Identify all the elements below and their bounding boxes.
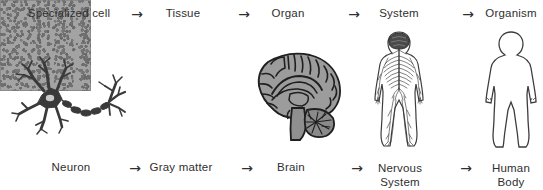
human-body-illustration xyxy=(480,30,542,148)
organization-hierarchy-diagram: Specialized cell → Tissue → Organ → Syst… xyxy=(0,0,543,190)
arrow-icon-nervous-system-to-human-body: → xyxy=(455,161,477,175)
example-label-nervous-system-line1: Nervous xyxy=(378,162,422,174)
example-label-human-body-line2: Body xyxy=(497,176,524,188)
arrow-icon-organ-to-system: → xyxy=(343,7,365,21)
neuron-illustration xyxy=(6,55,126,135)
arrow-icon-neuron-to-gray-matter: → xyxy=(124,161,146,175)
arrow-icon-cell-to-tissue: → xyxy=(126,7,148,21)
level-label-organ: Organ xyxy=(258,7,318,20)
example-label-brain: Brain xyxy=(262,161,320,174)
nervous-system-illustration xyxy=(368,30,430,148)
arrow-icon-system-to-organism: → xyxy=(457,7,479,21)
arrow-icon-gray-matter-to-brain: → xyxy=(236,161,258,175)
example-label-gray-matter: Gray matter xyxy=(144,161,218,174)
example-label-nervous-system: Nervous System xyxy=(372,161,428,189)
example-label-neuron: Neuron xyxy=(34,161,108,174)
level-label-system: System xyxy=(368,7,430,20)
level-label-specialized-cell: Specialized cell xyxy=(14,7,124,20)
example-label-human-body: Human Body xyxy=(484,161,538,189)
example-label-human-body-line1: Human xyxy=(492,162,530,174)
arrow-icon-tissue-to-organ: → xyxy=(233,7,255,21)
level-label-tissue: Tissue xyxy=(152,7,214,20)
micrograph-vignette xyxy=(133,47,224,138)
arrow-icon-brain-to-nervous-system: → xyxy=(346,161,368,175)
brain-illustration xyxy=(238,48,350,143)
example-label-nervous-system-line2: System xyxy=(380,176,420,188)
level-label-organism: Organism xyxy=(480,7,542,20)
